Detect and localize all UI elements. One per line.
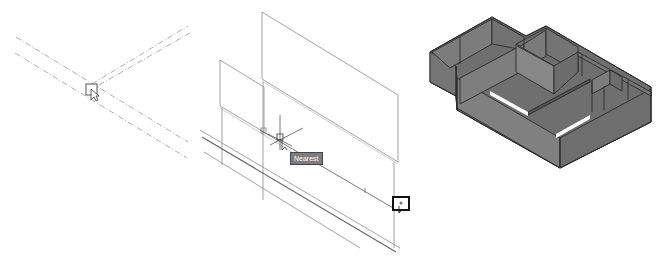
right-panel-3d-floorplan bbox=[420, 0, 662, 258]
snap-tooltip-nearest: Nearest bbox=[290, 152, 323, 165]
endpoint-snap-marker-icon bbox=[393, 197, 409, 213]
wall-junction-drawing bbox=[0, 0, 200, 258]
wall-line bbox=[99, 33, 190, 85]
plane-edge bbox=[262, 81, 398, 164]
middle-panel-snap-view: Nearest bbox=[200, 0, 420, 258]
wall-planes-drawing bbox=[200, 0, 420, 258]
left-panel-wall-junction bbox=[0, 0, 200, 258]
plane-edge bbox=[220, 108, 300, 157]
wall-line bbox=[16, 37, 188, 142]
base-line bbox=[200, 130, 400, 248]
base-line bbox=[204, 152, 360, 248]
pickbox-cursor-icon bbox=[86, 84, 99, 101]
back-wall-plane bbox=[262, 12, 398, 162]
floorplan-3d-model bbox=[420, 0, 662, 258]
wall-line bbox=[92, 26, 188, 84]
wall-line bbox=[15, 53, 187, 158]
